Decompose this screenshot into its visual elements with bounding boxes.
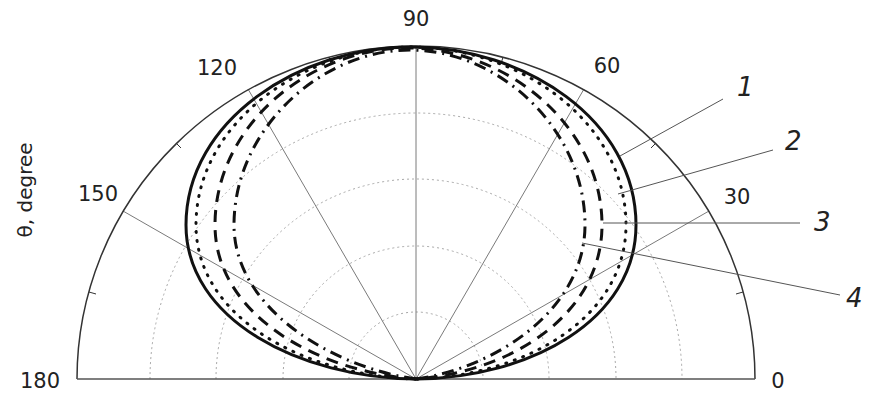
curve-2-dotted — [196, 47, 626, 379]
tick-label-30: 30 — [724, 185, 751, 209]
curve-label-3: 3 — [814, 207, 831, 237]
tick-label-120: 120 — [197, 56, 237, 80]
tick-label-60: 60 — [594, 54, 621, 78]
tick-label-0: 0 — [771, 369, 784, 393]
tick-label-150: 150 — [78, 182, 118, 206]
axis-title: θ, degree — [13, 142, 37, 237]
curve-3-dashed — [215, 48, 602, 379]
polar-chart: 1 2 3 4 90 60 120 30 150 180 0 θ, degree — [0, 0, 869, 399]
tick-label-90: 90 — [403, 7, 430, 31]
curve-label-1: 1 — [737, 72, 754, 102]
curve-label-4: 4 — [846, 283, 863, 313]
angle-spokes — [123, 46, 709, 379]
curve-label-2: 2 — [785, 126, 802, 156]
curves — [186, 47, 636, 379]
curve-4-dash-dot — [234, 50, 585, 379]
tick-label-180: 180 — [20, 369, 60, 393]
